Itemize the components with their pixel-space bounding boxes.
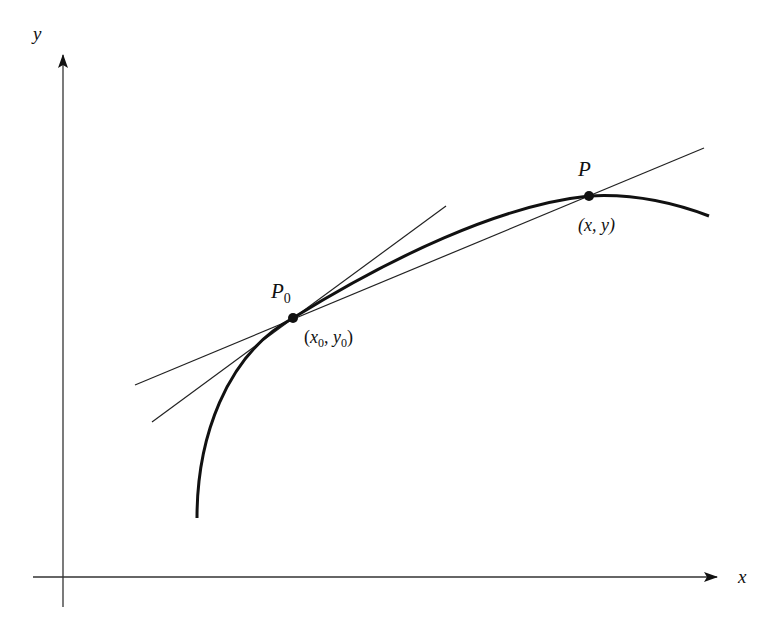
x-axis-label: x xyxy=(737,566,747,587)
diagram-canvas: x y P0 (x0, y0) P (x, y) xyxy=(0,0,769,637)
point-p-label: P xyxy=(577,157,591,181)
point-p0-coords: (x0, y0) xyxy=(304,327,353,350)
curve xyxy=(197,196,709,518)
point-p0-label: P0 xyxy=(270,279,291,306)
y-axis-label: y xyxy=(31,23,42,44)
point-p-coords: (x, y) xyxy=(578,215,615,236)
secant-line xyxy=(135,148,704,385)
point-p0 xyxy=(288,313,298,323)
point-p xyxy=(584,191,594,201)
